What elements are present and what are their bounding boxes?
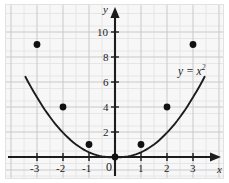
x-tick-label-2: 2 bbox=[164, 163, 170, 174]
origin-label: 0 bbox=[106, 161, 112, 173]
y-tick-label-8: 8 bbox=[103, 52, 109, 63]
x-tick-label-3: 3 bbox=[190, 163, 196, 174]
y-tick-label-10: 10 bbox=[97, 27, 108, 38]
x-tick-label-neg2: -2 bbox=[56, 163, 65, 174]
x-tick-label-neg3: -3 bbox=[30, 163, 39, 174]
equation-annotation: y = x2 bbox=[178, 66, 205, 78]
data-point bbox=[60, 104, 67, 111]
x-axis-label: x bbox=[217, 164, 222, 175]
graph-figure: -3 -2 -1 1 2 3 2 4 6 8 10 0 x y y = x2 bbox=[0, 0, 229, 183]
y-axis-label: y bbox=[103, 4, 108, 15]
y-tick-label-6: 6 bbox=[103, 77, 109, 88]
equation-text: y = x bbox=[178, 65, 202, 77]
data-point bbox=[164, 104, 171, 111]
y-tick-label-2: 2 bbox=[103, 127, 109, 138]
data-point bbox=[138, 141, 145, 148]
graph-canvas bbox=[0, 0, 229, 183]
x-tick-label-1: 1 bbox=[138, 163, 144, 174]
data-point bbox=[34, 41, 41, 48]
equation-exponent: 2 bbox=[202, 63, 206, 72]
data-point bbox=[190, 41, 197, 48]
data-point bbox=[86, 141, 93, 148]
data-point bbox=[112, 154, 119, 161]
x-tick-label-neg1: -1 bbox=[82, 163, 91, 174]
y-tick-label-4: 4 bbox=[103, 102, 109, 113]
